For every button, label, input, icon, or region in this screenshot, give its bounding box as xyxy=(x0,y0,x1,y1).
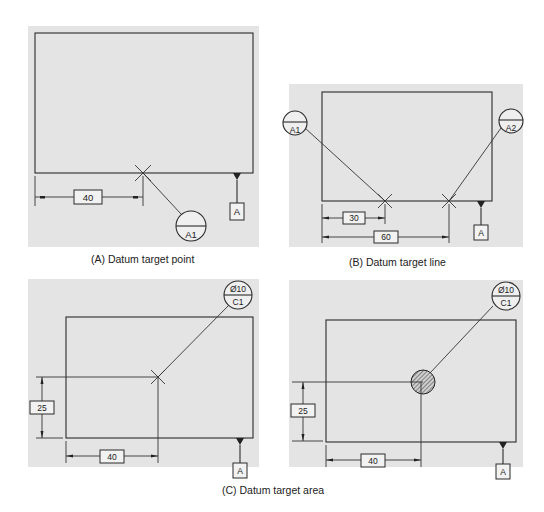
target-size: Ø10 xyxy=(498,285,514,295)
datum-target-symbol: A2 xyxy=(499,109,523,133)
panel-d-background xyxy=(289,280,523,467)
dimension-value: 60 xyxy=(381,232,391,242)
dimension-value: 40 xyxy=(368,456,378,466)
target-label: C1 xyxy=(233,297,244,307)
panel-c-background xyxy=(28,279,259,467)
datum-label: A xyxy=(237,466,243,476)
panel-d-datum-target-area-hatched: 25 40 Ø10 C1 A xyxy=(289,280,523,479)
panel-c-datum-target-area-point: 25 40 Ø10 C1 A xyxy=(28,279,259,478)
datum-target-symbol: A1 xyxy=(283,111,307,135)
datum-target-symbol: A1 xyxy=(176,211,206,241)
target-label: C1 xyxy=(501,298,512,308)
panel-a-background xyxy=(28,26,259,247)
panel-b-background xyxy=(289,84,523,247)
dimension-value: 25 xyxy=(298,406,308,416)
datum-target-symbol: Ø10 C1 xyxy=(492,282,520,310)
datum-label: A xyxy=(234,206,241,217)
dimension-value: 40 xyxy=(83,192,94,203)
dimension-value: 40 xyxy=(107,452,117,462)
caption-panel-c: (C) Datum target area xyxy=(222,484,324,496)
target-label: A1 xyxy=(290,125,301,135)
datum-label: A xyxy=(478,228,484,238)
target-size: Ø10 xyxy=(230,284,246,294)
datum-label: A xyxy=(500,467,506,477)
datum-target-symbol: Ø10 C1 xyxy=(224,281,252,309)
target-label: A1 xyxy=(185,229,197,240)
panel-a-datum-target-point: 40 A1 A xyxy=(28,26,259,247)
target-label: A2 xyxy=(506,123,517,133)
panel-b-datum-target-line: 30 60 A1 A2 A xyxy=(283,84,523,247)
caption-panel-b: (B) Datum target line xyxy=(349,256,446,268)
figure-canvas: 40 A1 A xyxy=(0,0,544,512)
dimension-value: 25 xyxy=(37,403,47,413)
dimension-value: 30 xyxy=(349,213,359,223)
caption-panel-a: (A) Datum target point xyxy=(91,253,194,265)
